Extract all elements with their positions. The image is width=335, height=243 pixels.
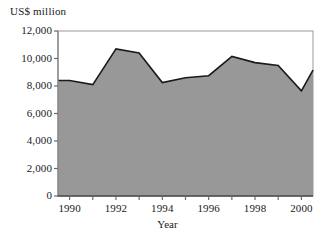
y-tick-label: 2,000: [8, 162, 52, 174]
x-tick-label: 1990: [50, 202, 90, 214]
y-tick-label: 8,000: [8, 79, 52, 91]
y-tick-label: 4,000: [8, 134, 52, 146]
x-tick-label: 1996: [189, 202, 229, 214]
x-axis-title: Year: [0, 218, 335, 230]
x-tick-label: 1994: [142, 202, 182, 214]
chart-page: US$ million 02,0004,0006,0008,00010,0001…: [0, 0, 335, 243]
x-tick-label: 2000: [281, 202, 321, 214]
plot-area: 02,0004,0006,0008,00010,00012,000 199019…: [0, 0, 335, 243]
x-tick-label: 1992: [96, 202, 136, 214]
y-tick-label: 0: [8, 189, 52, 201]
y-tick-label: 12,000: [8, 24, 52, 36]
y-tick-label: 10,000: [8, 52, 52, 64]
y-tick-label: 6,000: [8, 107, 52, 119]
x-tick-label: 1998: [235, 202, 275, 214]
